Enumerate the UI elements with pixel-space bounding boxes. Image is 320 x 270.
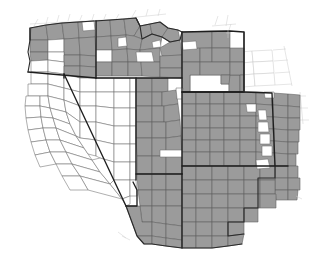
county xyxy=(230,48,244,62)
county xyxy=(182,222,196,236)
county xyxy=(288,94,300,107)
outside-county xyxy=(254,73,275,86)
county xyxy=(224,140,240,152)
county xyxy=(112,49,128,62)
county xyxy=(96,50,112,62)
county xyxy=(288,154,296,166)
county xyxy=(118,37,127,47)
county xyxy=(210,92,224,104)
county xyxy=(240,92,256,104)
county xyxy=(166,156,182,174)
county xyxy=(114,126,130,144)
county xyxy=(130,144,136,162)
county xyxy=(26,117,43,130)
county xyxy=(160,55,182,68)
county xyxy=(112,62,128,76)
county xyxy=(212,208,228,222)
county xyxy=(196,166,212,180)
county xyxy=(137,174,152,190)
county xyxy=(260,194,276,208)
county xyxy=(137,156,152,174)
county xyxy=(182,116,196,128)
county xyxy=(152,174,166,190)
county xyxy=(30,52,48,61)
county xyxy=(275,166,288,178)
county xyxy=(166,120,181,138)
county xyxy=(166,206,182,226)
county xyxy=(80,55,96,67)
county xyxy=(25,106,41,118)
county xyxy=(288,130,299,142)
county xyxy=(31,60,48,72)
county xyxy=(182,208,196,222)
county xyxy=(212,194,228,208)
outside-county xyxy=(253,61,274,74)
county xyxy=(182,128,196,140)
county xyxy=(273,117,288,130)
county xyxy=(136,52,154,62)
county xyxy=(152,222,166,238)
county xyxy=(141,62,160,77)
county xyxy=(230,62,244,75)
county xyxy=(25,96,40,106)
county xyxy=(224,152,240,166)
county xyxy=(256,159,270,169)
county-choropleth-map xyxy=(0,0,320,270)
county xyxy=(196,236,212,248)
county xyxy=(275,178,288,190)
county xyxy=(182,152,196,166)
county xyxy=(96,36,112,50)
county xyxy=(210,140,224,152)
county xyxy=(114,144,130,162)
region-outline-west xyxy=(28,28,30,72)
county xyxy=(138,190,152,206)
county xyxy=(152,190,166,206)
county xyxy=(152,92,162,106)
county xyxy=(182,104,196,116)
county xyxy=(273,105,288,118)
county xyxy=(196,180,212,194)
county xyxy=(114,92,130,108)
county xyxy=(96,92,114,108)
county xyxy=(228,166,244,180)
county xyxy=(288,106,300,118)
county xyxy=(182,140,196,152)
county xyxy=(136,122,152,138)
county xyxy=(240,152,256,166)
county xyxy=(96,78,114,92)
county xyxy=(228,194,244,208)
county xyxy=(212,31,230,48)
county xyxy=(130,92,136,108)
county xyxy=(196,194,212,208)
county xyxy=(48,60,64,74)
county xyxy=(200,48,212,62)
faint-county-line xyxy=(128,14,166,18)
county xyxy=(196,152,210,166)
county xyxy=(46,23,64,40)
county xyxy=(196,116,210,128)
county xyxy=(288,178,300,190)
county xyxy=(136,138,152,156)
county xyxy=(152,206,166,224)
county xyxy=(212,48,230,62)
county xyxy=(152,156,166,174)
county xyxy=(28,84,48,96)
faint-county-line xyxy=(132,9,160,17)
county xyxy=(160,40,182,56)
county xyxy=(196,208,212,222)
county xyxy=(82,21,95,31)
county xyxy=(228,208,244,222)
county xyxy=(240,116,256,128)
county xyxy=(166,190,182,206)
county xyxy=(196,140,210,152)
faint-county-line xyxy=(212,24,236,26)
county xyxy=(275,190,288,200)
county xyxy=(240,140,256,152)
county xyxy=(110,19,126,36)
county xyxy=(288,118,300,130)
county xyxy=(224,116,240,128)
county xyxy=(258,122,269,132)
county xyxy=(210,116,224,128)
county xyxy=(114,78,130,92)
county xyxy=(212,222,228,236)
